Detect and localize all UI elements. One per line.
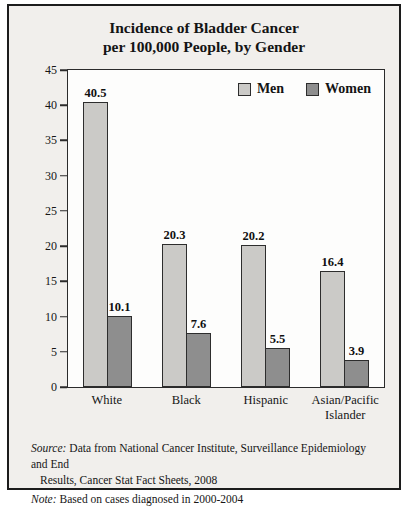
y-axis-tick-mark	[60, 104, 67, 106]
chart-title-line2: per 100,000 People, by Gender	[9, 37, 399, 56]
bar-value-label: 40.5	[85, 86, 107, 101]
y-axis-tick-label: 25	[31, 205, 57, 217]
bar-groups: 40.510.120.37.620.25.516.43.9	[68, 70, 384, 387]
y-axis-tick-label: 10	[31, 311, 57, 323]
women-bar: 7.6	[186, 333, 211, 387]
legend-label-women: Women	[325, 81, 371, 97]
y-axis-tick-mark	[60, 175, 67, 177]
note-line: Note:Based on cases diagnosed in 2000-20…	[31, 491, 385, 507]
legend-swatch-women	[306, 83, 319, 96]
chart-title: Incidence of Bladder Cancer per 100,000 …	[9, 18, 399, 56]
women-bar: 5.5	[265, 348, 290, 387]
note-label: Note:	[31, 493, 57, 505]
category-label-asian-pacific-islander: Asian/Pacific Islander	[306, 393, 386, 423]
y-axis-tick-mark	[60, 316, 67, 318]
bar-value-label: 20.3	[164, 228, 186, 243]
bar-value-label: 16.4	[322, 255, 344, 270]
source-line-continuation: Results, Cancer Stat Fact Sheets, 2008	[31, 472, 385, 488]
bar-value-label: 10.1	[109, 300, 131, 315]
y-axis-tick-mark	[60, 140, 67, 142]
y-axis-tick-label: 5	[31, 346, 57, 358]
legend-label-men: Men	[257, 81, 284, 97]
y-axis-tick-mark	[60, 281, 67, 283]
bar-value-label: 7.6	[191, 317, 207, 332]
men-bar: 40.5	[83, 102, 108, 387]
source-line: Source:Data from National Cancer Institu…	[31, 440, 385, 472]
bar-group-black: 20.37.6	[162, 70, 212, 387]
women-bar: 3.9	[344, 360, 369, 387]
bar-group-white: 40.510.1	[83, 70, 133, 387]
source-text-line1: Data from National Cancer Institute, Sur…	[31, 442, 366, 470]
y-axis-tick-label: 0	[31, 381, 57, 393]
y-axis-tick-label: 30	[31, 170, 57, 182]
y-axis-tick-label: 20	[31, 240, 57, 252]
category-label-hispanic: Hispanic	[226, 393, 306, 423]
men-bar: 20.3	[162, 244, 187, 387]
men-bar: 20.2	[241, 245, 266, 387]
category-label-white: White	[67, 393, 147, 423]
women-bar: 10.1	[107, 316, 132, 387]
legend: MenWomen	[238, 81, 371, 97]
plot-area: 40.510.120.37.620.25.516.43.9 MenWomen 4…	[67, 69, 385, 388]
y-axis-tick-label: 15	[31, 275, 57, 287]
note-text: Based on cases diagnosed in 2000-2004	[60, 493, 244, 505]
y-axis-tick-label: 35	[31, 134, 57, 146]
bar-value-label: 5.5	[270, 332, 286, 347]
men-bar: 16.4	[320, 271, 345, 387]
legend-item-men: Men	[238, 81, 284, 97]
y-axis-tick-mark	[60, 69, 67, 71]
y-axis-tick-mark	[60, 351, 67, 353]
y-axis-tick-mark	[60, 210, 67, 212]
bar-value-label: 20.2	[243, 229, 265, 244]
category-axis: WhiteBlackHispanicAsian/Pacific Islander	[67, 393, 385, 423]
source-label: Source:	[31, 442, 66, 454]
bar-group-hispanic: 20.25.5	[241, 70, 291, 387]
chart-title-line1: Incidence of Bladder Cancer	[9, 18, 399, 37]
legend-swatch-men	[238, 83, 251, 96]
legend-item-women: Women	[306, 81, 371, 97]
bar-value-label: 3.9	[349, 344, 365, 359]
footer: Source:Data from National Cancer Institu…	[31, 440, 385, 507]
y-axis-tick-mark	[60, 386, 67, 388]
y-axis-tick-mark	[60, 245, 67, 247]
figure-panel: Incidence of Bladder Cancer per 100,000 …	[7, 4, 401, 490]
category-label-black: Black	[147, 393, 227, 423]
bar-group-asian-pacific-islander: 16.43.9	[320, 70, 370, 387]
y-axis-tick-label: 40	[31, 99, 57, 111]
y-axis-tick-label: 45	[31, 64, 57, 76]
